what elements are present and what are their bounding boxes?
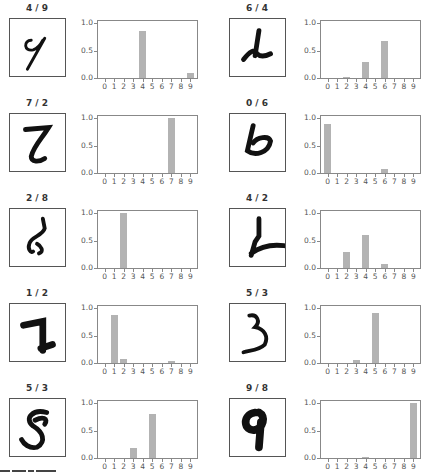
prediction-panel: 7 / 20.00.51.00123456789	[0, 95, 214, 189]
y-tick-mark	[94, 403, 97, 404]
x-tick-label: 9	[185, 177, 195, 186]
y-tick-mark	[317, 78, 320, 79]
x-tick-label: 5	[370, 272, 380, 281]
x-tick-label: 0	[100, 82, 110, 91]
x-tick-label: 9	[185, 462, 195, 471]
x-tick-label: 0	[100, 272, 110, 281]
prediction-panel: 5 / 30.00.51.00123456789	[0, 380, 214, 474]
probability-bar	[410, 403, 417, 458]
x-tick-label: 6	[380, 462, 390, 471]
y-tick-label: 0.0	[296, 73, 316, 82]
x-tick-label: 4	[361, 177, 371, 186]
probability-bar	[381, 41, 388, 78]
y-tick-mark	[317, 363, 320, 364]
y-tick-mark	[94, 51, 97, 52]
x-tick-label: 9	[408, 82, 418, 91]
x-tick-label: 3	[128, 82, 138, 91]
x-tick-label: 8	[176, 177, 186, 186]
y-tick-label: 0.5	[296, 141, 316, 150]
y-tick-label: 1.0	[296, 208, 316, 217]
x-tick-label: 7	[389, 462, 399, 471]
x-tick-label: 6	[380, 272, 390, 281]
y-tick-label: 0.0	[296, 453, 316, 462]
x-tick-label: 1	[332, 367, 342, 376]
y-tick-mark	[317, 146, 320, 147]
x-tick-label: 2	[342, 272, 352, 281]
cut-off-footer-text	[0, 470, 80, 476]
digit-image	[229, 398, 286, 457]
x-tick-label: 3	[351, 462, 361, 471]
x-tick-label: 3	[128, 367, 138, 376]
y-tick-label: 0.5	[73, 141, 93, 150]
x-tick-label: 0	[100, 177, 110, 186]
panel-title: 1 / 2	[7, 288, 67, 298]
panel-title: 7 / 2	[7, 98, 67, 108]
probability-bar	[381, 169, 388, 173]
probability-bar-chart	[97, 20, 198, 79]
prediction-panel: 0 / 60.00.51.00123456789	[214, 95, 428, 189]
x-tick-label: 1	[332, 177, 342, 186]
y-tick-label: 0.5	[296, 46, 316, 55]
x-tick-label: 4	[361, 272, 371, 281]
x-tick-label: 0	[100, 462, 110, 471]
x-tick-label: 1	[332, 272, 342, 281]
probability-bar	[187, 73, 194, 78]
probability-bar	[362, 235, 369, 268]
x-tick-label: 0	[323, 462, 333, 471]
y-tick-label: 0.5	[73, 331, 93, 340]
x-tick-label: 5	[370, 177, 380, 186]
x-tick-label: 1	[109, 367, 119, 376]
x-tick-label: 4	[361, 367, 371, 376]
y-tick-mark	[317, 51, 320, 52]
probability-bar	[139, 31, 146, 78]
y-tick-mark	[94, 173, 97, 174]
x-tick-label: 2	[119, 272, 129, 281]
y-tick-label: 1.0	[73, 208, 93, 217]
probability-bar	[168, 361, 175, 363]
x-tick-label: 9	[185, 82, 195, 91]
prediction-panel: 4 / 90.00.51.00123456789	[0, 0, 214, 94]
x-tick-label: 4	[138, 462, 148, 471]
y-tick-label: 0.5	[73, 46, 93, 55]
x-tick-label: 1	[109, 82, 119, 91]
y-tick-mark	[94, 78, 97, 79]
y-tick-mark	[94, 336, 97, 337]
x-tick-label: 4	[361, 462, 371, 471]
x-tick-label: 3	[128, 177, 138, 186]
x-tick-label: 4	[138, 82, 148, 91]
y-tick-mark	[317, 268, 320, 269]
x-tick-label: 8	[399, 367, 409, 376]
digit-image	[229, 208, 286, 267]
x-tick-label: 6	[157, 177, 167, 186]
x-tick-label: 5	[147, 177, 157, 186]
probability-bar	[324, 124, 331, 173]
y-tick-label: 0.0	[296, 358, 316, 367]
y-tick-mark	[317, 308, 320, 309]
y-tick-label: 1.0	[73, 398, 93, 407]
prediction-panel: 6 / 40.00.51.00123456789	[214, 0, 428, 94]
y-tick-mark	[94, 23, 97, 24]
panel-title: 2 / 8	[7, 193, 67, 203]
digit-image	[229, 18, 286, 77]
x-tick-label: 3	[351, 82, 361, 91]
x-tick-label: 7	[166, 462, 176, 471]
probability-bar	[168, 118, 175, 173]
x-tick-label: 5	[147, 272, 157, 281]
y-tick-label: 0.5	[296, 426, 316, 435]
x-tick-label: 1	[109, 272, 119, 281]
panel-title: 4 / 2	[227, 193, 287, 203]
x-tick-label: 9	[408, 272, 418, 281]
probability-bar	[149, 414, 156, 458]
y-tick-label: 0.0	[73, 358, 93, 367]
x-tick-label: 5	[147, 367, 157, 376]
x-tick-label: 5	[370, 367, 380, 376]
prediction-panel: 1 / 20.00.51.00123456789	[0, 285, 214, 379]
probability-bar	[111, 315, 118, 363]
panel-title: 0 / 6	[227, 98, 287, 108]
probability-bar	[343, 77, 350, 78]
digit-image	[9, 303, 66, 362]
x-tick-label: 7	[166, 177, 176, 186]
x-tick-label: 2	[119, 82, 129, 91]
y-tick-label: 1.0	[73, 303, 93, 312]
x-tick-label: 1	[332, 462, 342, 471]
